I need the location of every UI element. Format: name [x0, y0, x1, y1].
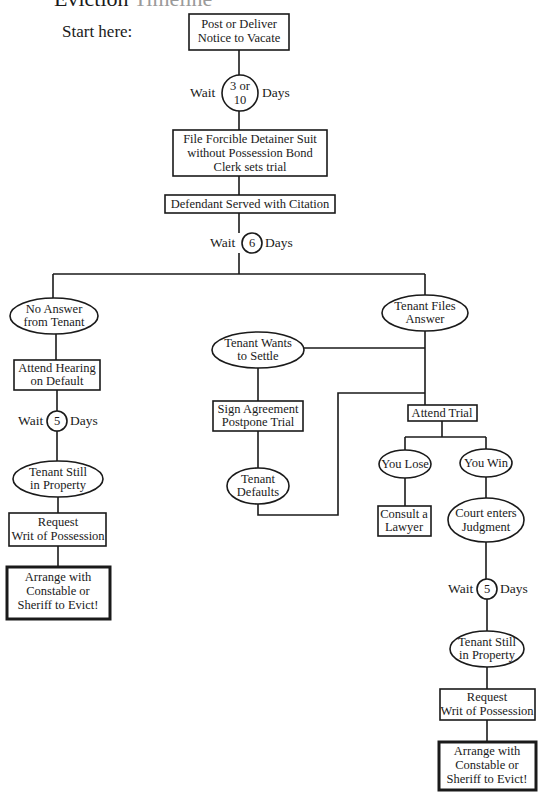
node-wait-5-days-right: Wait 5 Days — [448, 579, 528, 599]
svg-text:Court enters: Court enters — [455, 506, 517, 520]
eviction-flowchart: Eviction Timeline Start here: — [0, 0, 545, 799]
svg-text:Defaults: Defaults — [237, 485, 279, 499]
svg-text:Clerk sets trial: Clerk sets trial — [214, 160, 287, 174]
node-court-enters-judgment: Court enters Judgment — [448, 498, 524, 542]
node-sign-agreement: Sign Agreement Postpone Trial — [213, 401, 303, 431]
node-arrange-eviction-right: Arrange with Constable or Sheriff to Evi… — [439, 742, 536, 790]
node-request-writ-right: Request Writ of Possession — [440, 689, 535, 720]
svg-text:Days: Days — [500, 581, 528, 596]
node-consult-a-lawyer: Consult a Lawyer — [378, 506, 431, 536]
node-tenant-wants-to-settle: Tenant Wants to Settle — [212, 332, 304, 368]
svg-text:3 or: 3 or — [230, 79, 251, 93]
node-wait-6-days: Wait 6 Days — [210, 233, 293, 253]
svg-text:Writ of Possession: Writ of Possession — [11, 529, 105, 543]
start-label: Start here: — [62, 22, 132, 41]
node-you-win: You Win — [460, 449, 512, 477]
svg-text:Consult a: Consult a — [380, 507, 428, 521]
svg-text:You Win: You Win — [464, 456, 509, 470]
svg-text:File Forcible Detainer Suit: File Forcible Detainer Suit — [183, 132, 317, 146]
node-attend-trial: Attend Trial — [408, 405, 477, 421]
svg-text:Wait: Wait — [18, 413, 43, 428]
page-title: Eviction Timeline — [54, 0, 212, 11]
svg-text:Arrange with: Arrange with — [454, 744, 521, 758]
node-wait-5-days-left: Wait 5 Days — [18, 411, 98, 431]
svg-text:10: 10 — [234, 93, 247, 107]
svg-text:Constable or: Constable or — [26, 584, 90, 598]
svg-text:Tenant Wants: Tenant Wants — [224, 336, 292, 350]
svg-text:5: 5 — [484, 582, 490, 596]
node-arrange-eviction-left: Arrange with Constable or Sheriff to Evi… — [7, 567, 110, 619]
svg-text:5: 5 — [54, 414, 60, 428]
node-you-lose: You Lose — [379, 450, 431, 478]
svg-text:Sign Agreement: Sign Agreement — [218, 402, 299, 416]
node-request-writ-left: Request Writ of Possession — [9, 513, 106, 546]
node-defendant-served: Defendant Served with Citation — [165, 195, 335, 213]
node-tenant-still-in-property-left: Tenant Still in Property — [13, 461, 103, 497]
svg-text:Days: Days — [70, 413, 98, 428]
svg-text:Sheriff to Evict!: Sheriff to Evict! — [447, 772, 528, 786]
node-wait-3-or-10-days: Wait 3 or 10 Days — [190, 75, 290, 111]
node-tenant-defaults: Tenant Defaults — [227, 468, 289, 504]
svg-text:Writ of Possession: Writ of Possession — [440, 704, 534, 718]
svg-text:in Property: in Property — [459, 648, 516, 662]
svg-text:Wait: Wait — [448, 581, 473, 596]
svg-text:Notice to Vacate: Notice to Vacate — [198, 31, 281, 45]
svg-text:Request: Request — [467, 690, 508, 704]
svg-text:Wait: Wait — [210, 235, 235, 250]
node-tenant-files-answer: Tenant Files Answer — [382, 295, 468, 331]
svg-text:from Tenant: from Tenant — [23, 315, 85, 329]
node-tenant-still-in-property-right: Tenant Still in Property — [450, 631, 524, 667]
svg-text:on Default: on Default — [30, 374, 84, 388]
svg-text:6: 6 — [249, 236, 255, 250]
svg-text:Attend Hearing: Attend Hearing — [18, 361, 96, 375]
svg-text:Answer: Answer — [406, 312, 446, 326]
svg-text:Attend Trial: Attend Trial — [412, 406, 473, 420]
svg-text:Request: Request — [38, 515, 79, 529]
svg-text:Postpone Trial: Postpone Trial — [222, 415, 295, 429]
svg-text:No Answer: No Answer — [26, 302, 83, 316]
svg-text:Tenant Files: Tenant Files — [394, 299, 455, 313]
svg-text:without Possession Bond: without Possession Bond — [187, 146, 313, 160]
svg-text:in Property: in Property — [30, 478, 87, 492]
svg-text:Wait: Wait — [190, 85, 215, 100]
svg-text:You Lose: You Lose — [381, 457, 429, 471]
svg-text:Days: Days — [265, 235, 293, 250]
svg-text:to Settle: to Settle — [237, 349, 279, 363]
svg-text:Post or Deliver: Post or Deliver — [201, 17, 278, 31]
svg-text:Tenant: Tenant — [241, 472, 275, 486]
svg-text:Days: Days — [262, 85, 290, 100]
node-attend-hearing-on-default: Attend Hearing on Default — [14, 360, 100, 390]
svg-text:Lawyer: Lawyer — [385, 520, 424, 534]
svg-text:Judgment: Judgment — [462, 520, 511, 534]
svg-text:Tenant Still: Tenant Still — [458, 635, 516, 649]
svg-text:Constable or: Constable or — [455, 758, 519, 772]
node-file-forcible-detainer-suit: File Forcible Detainer Suit without Poss… — [173, 130, 327, 176]
svg-text:Sheriff to Evict!: Sheriff to Evict! — [18, 598, 99, 612]
svg-text:Arrange with: Arrange with — [25, 570, 92, 584]
svg-text:Defendant Served with Citation: Defendant Served with Citation — [171, 197, 330, 211]
node-no-answer-from-tenant: No Answer from Tenant — [10, 298, 98, 334]
svg-text:Tenant Still: Tenant Still — [29, 465, 87, 479]
node-notice-to-vacate: Post or Deliver Notice to Vacate — [189, 14, 289, 50]
